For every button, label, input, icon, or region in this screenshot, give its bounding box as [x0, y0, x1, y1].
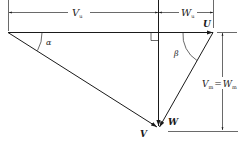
v-label: V: [140, 129, 148, 139]
alpha-label: α: [46, 38, 52, 47]
alpha-arc: [38, 33, 43, 51]
right-angle-marker: [151, 33, 158, 41]
v-vector-line: [8, 33, 157, 128]
beta-arc: [183, 33, 197, 61]
beta-label: β: [173, 49, 179, 58]
vm-equals-wm-label: Vm=Wm: [202, 79, 237, 90]
u-label: U: [203, 19, 212, 29]
velocity-triangle-diagram: Vu Wu U α β Vm=Wm V W: [0, 0, 245, 145]
w-label: W: [168, 117, 179, 127]
